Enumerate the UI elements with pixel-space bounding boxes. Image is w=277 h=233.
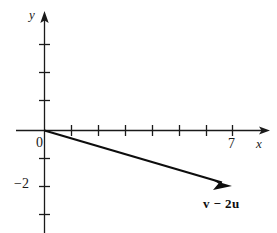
vector-label-v-minus-2u: v − 2u xyxy=(203,197,240,210)
vector-v-minus-2u-shaft xyxy=(45,131,223,183)
vector-v-minus-2u-arrowhead xyxy=(213,181,232,191)
vector-plot-figure: y x 0 7 −2 v − 2u xyxy=(0,0,277,233)
y-axis-label: y xyxy=(29,8,35,21)
x-tick-label-7: 7 xyxy=(228,137,235,151)
y-tick-label-minus-2: −2 xyxy=(14,177,29,191)
x-axis-label: x xyxy=(256,137,262,150)
origin-label: 0 xyxy=(36,136,43,150)
